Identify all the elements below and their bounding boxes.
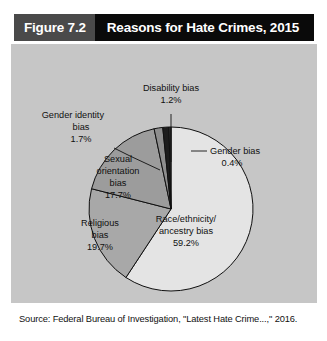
label-disability-bias-value: 1.2% (161, 95, 182, 105)
label-religious-line1: Religious (81, 218, 119, 228)
label-gender-bias-value: 0.4% (222, 158, 243, 168)
label-religious-value: 19.7% (87, 242, 113, 252)
figure-header-bar: Figure 7.2 Reasons for Hate Crimes, 2015 (14, 14, 314, 41)
label-sexual-orientation-value: 17.7% (105, 190, 131, 200)
label-religious-line2: bias (92, 230, 109, 240)
source-note: Source: Federal Bureau of Investigation,… (19, 314, 315, 324)
figure-number-label: Figure 7.2 (14, 14, 95, 41)
label-disability-bias: Disability bias 1.2% (143, 83, 200, 105)
label-race-value: 59.2% (173, 238, 199, 248)
label-gender-identity-bias: Gender identity bias 1.7% (42, 110, 105, 144)
label-gender-identity-line1: Gender identity (42, 110, 105, 120)
label-gender-bias-text: Gender bias (210, 146, 260, 156)
source-band: Source: Federal Bureau of Investigation,… (0, 303, 327, 341)
chart-panel: Disability bias 1.2% Gender identity bia… (11, 44, 317, 303)
label-gender-identity-line2: bias (73, 122, 90, 132)
figure-container: Figure 7.2 Reasons for Hate Crimes, 2015… (0, 0, 327, 341)
label-race-line1: Race/ethnicity/ (156, 214, 217, 224)
label-sexual-orientation-line1: Sexual (104, 154, 132, 164)
label-race-line2: ancestry bias (159, 226, 214, 236)
figure-title: Reasons for Hate Crimes, 2015 (95, 14, 314, 41)
label-disability-bias-text: Disability bias (143, 83, 200, 93)
label-gender-identity-value: 1.7% (71, 134, 92, 144)
label-sexual-orientation-line3: bias (110, 178, 127, 188)
label-sexual-orientation-line2: orientation (97, 166, 140, 176)
pie-chart: Disability bias 1.2% Gender identity bia… (11, 44, 317, 303)
